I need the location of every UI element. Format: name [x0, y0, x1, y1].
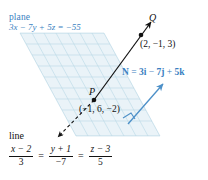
line-fraction-y: y + 1 −7 — [49, 145, 73, 167]
line-symmetric-equation: x − 2 3 = y + 1 −7 = z − 3 5 — [9, 145, 112, 167]
normal-vector-j-term: 7j — [156, 67, 164, 77]
line-fraction-z-denominator: 5 — [96, 158, 105, 168]
line-fraction-z-numerator: z − 3 — [89, 145, 113, 155]
line-fraction-x-denominator: 3 — [17, 158, 26, 168]
normal-vector-k-term: 5k — [175, 67, 185, 77]
point-p-coords: (−1, 6, −2) — [79, 105, 120, 115]
plane-caption: plane 3x − 7y + 5z = −55 — [9, 13, 81, 32]
line-fraction-x-numerator: x − 2 — [9, 145, 33, 155]
normal-vector-arrow — [128, 84, 163, 124]
point-p-letter: P — [89, 87, 95, 98]
normal-vector-minus: − — [149, 67, 154, 77]
plane-equation: 3x − 7y + 5z = −55 — [9, 23, 81, 32]
normal-vector-plus: + — [167, 67, 172, 77]
point-q-coords: (2, −1, 3) — [140, 40, 175, 50]
normal-vector-label: N = 3i − 7j + 5k — [122, 68, 185, 78]
line-fraction-y-denominator: −7 — [54, 158, 68, 168]
line-equals-1: = — [37, 151, 45, 162]
point-q-dot — [139, 33, 144, 38]
line-caption-label: line — [9, 131, 24, 142]
normal-vector-equals: = — [131, 67, 136, 77]
line-fraction-x: x − 2 3 — [9, 145, 33, 167]
point-q-letter: Q — [149, 13, 156, 24]
line-equals-2: = — [77, 151, 85, 162]
point-p-dot — [92, 98, 97, 103]
geometry-figure: plane 3x − 7y + 5z = −55 Q (2, −1, 3) P … — [0, 0, 208, 180]
normal-vector-i-term: 3i — [139, 67, 146, 77]
line-fraction-z: z − 3 5 — [89, 145, 113, 167]
normal-vector-symbol: N — [122, 67, 129, 77]
line-fraction-y-numerator: y + 1 — [49, 145, 73, 155]
